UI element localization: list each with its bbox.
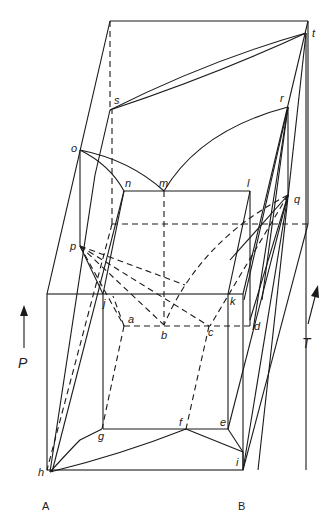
label-s: s	[114, 94, 120, 106]
label-b: b	[161, 329, 167, 341]
label-i: i	[236, 456, 239, 468]
label-c: c	[208, 326, 214, 338]
label-h: h	[38, 466, 44, 478]
phase-curves	[47, 33, 306, 472]
label-p: p	[69, 240, 76, 252]
temperature-label: T	[302, 335, 312, 351]
label-g: g	[98, 430, 105, 442]
pressure-axis: P	[18, 305, 28, 371]
inner-box	[103, 110, 308, 429]
label-l: l	[247, 177, 250, 189]
phase-diagram: s t r o n m l q p j k a b c d f e g h i …	[0, 0, 336, 526]
point-labels: s t r o n m l q p j k a b c d f e g h i …	[38, 27, 316, 512]
label-r: r	[280, 92, 285, 104]
label-n: n	[125, 177, 131, 189]
label-m: m	[159, 177, 168, 189]
label-k: k	[230, 295, 236, 307]
label-q: q	[294, 193, 301, 205]
pressure-label: P	[18, 355, 28, 371]
label-d: d	[254, 320, 261, 332]
label-component-b: B	[238, 500, 245, 512]
label-f: f	[179, 416, 183, 428]
label-o: o	[71, 142, 77, 154]
temperature-axis: T	[302, 285, 319, 351]
label-a: a	[128, 313, 134, 325]
label-t: t	[312, 27, 316, 39]
label-e: e	[220, 416, 226, 428]
label-j: j	[101, 297, 106, 309]
temperature-arrow-icon	[308, 293, 316, 324]
label-component-a: A	[42, 500, 50, 512]
